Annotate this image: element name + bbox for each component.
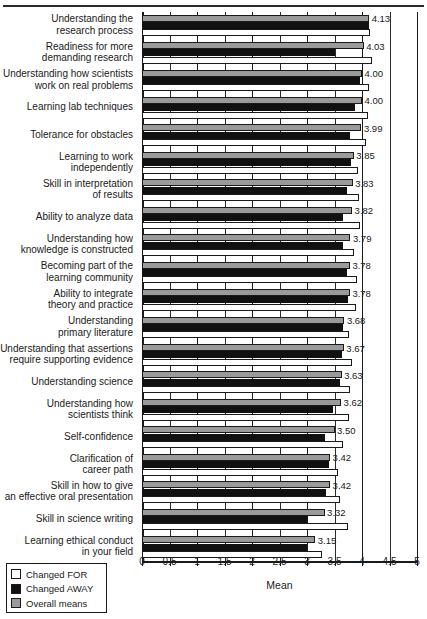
bar-forbar (142, 84, 369, 91)
bar-forbar (142, 222, 360, 229)
bar-group (142, 262, 417, 289)
x-tick-label-4: 4 (359, 556, 365, 567)
bar-away (142, 406, 333, 413)
bar-forbar (142, 29, 370, 36)
x-axis-title: Mean (142, 579, 417, 591)
bar-forbar (142, 523, 348, 530)
bar-overall (142, 42, 364, 49)
category-label: Self-confidence (0, 431, 138, 442)
bar-group (142, 371, 417, 398)
category-label-column: Understanding the research processReadin… (0, 12, 138, 561)
x-tick-label-5: 5 (414, 556, 420, 567)
bar-group (142, 152, 417, 179)
category-label: Understanding that assertions require su… (0, 343, 138, 366)
bar-overall (142, 207, 352, 214)
category-label: Ability to integrate theory and practice (0, 288, 138, 311)
bar-overall (142, 262, 350, 269)
bar-overall (142, 179, 353, 186)
bar-overall (142, 234, 350, 241)
bar-value-label: 4.00 (365, 69, 384, 79)
category-label: Understanding how scientists work on rea… (0, 68, 138, 91)
horizontal-bar-chart: Understanding the research processReadin… (0, 0, 427, 619)
bar-away (142, 187, 347, 194)
bar-value-label: 3.83 (355, 179, 374, 189)
bar-away (142, 489, 326, 496)
category-label: Understanding how scientists think (0, 398, 138, 421)
bar-overall (142, 536, 315, 543)
bar-away (142, 269, 347, 276)
bar-away (142, 22, 369, 29)
category-label: Skill in interpretation of results (0, 178, 138, 201)
category-label: Learning ethical conduct in your field (0, 535, 138, 558)
bar-overall (142, 426, 335, 433)
bar-away (142, 461, 329, 468)
bar-group (142, 399, 417, 426)
category-label: Learning to work independently (0, 151, 138, 174)
bar-group (142, 344, 417, 371)
bar-overall (142, 481, 330, 488)
bar-value-label: 3.62 (344, 398, 363, 408)
bar-overall (142, 97, 362, 104)
bar-value-label: 3.50 (337, 426, 356, 436)
category-label: Ability to analyze data (0, 211, 138, 222)
x-tick-label-4.5: 4.5 (383, 556, 397, 567)
legend-item-changed-for: Changed FOR (11, 567, 102, 582)
bar-away (142, 379, 340, 386)
category-label: Learning lab techniques (0, 101, 138, 112)
bar-value-label: 4.03 (366, 42, 385, 52)
bar-value-label: 3.78 (352, 261, 371, 271)
category-label: Tolerance for obstacles (0, 129, 138, 140)
bar-overall (142, 289, 350, 296)
bar-forbar (142, 304, 356, 311)
bar-group (142, 207, 417, 234)
bar-forbar (142, 386, 350, 393)
bar-value-label: 3.82 (355, 206, 374, 216)
category-label: Understanding science (0, 376, 138, 387)
bar-value-label: 3.79 (353, 234, 372, 244)
category-label: Skill in science writing (0, 513, 138, 524)
plot-area: 4.134.034.004.003.993.853.833.823.793.78… (142, 12, 417, 561)
x-tick-label-3.5: 3.5 (328, 556, 342, 567)
gridline-5 (417, 12, 418, 561)
x-tick-label-1.5: 1.5 (218, 556, 232, 567)
legend-swatch-changed-away-icon (11, 584, 21, 594)
bar-overall (142, 454, 330, 461)
bar-forbar (142, 469, 338, 476)
bar-away (142, 544, 307, 551)
legend-label-changed-away: Changed AWAY (26, 583, 93, 594)
bar-forbar (142, 194, 359, 201)
bar-group (142, 289, 417, 316)
bar-away (142, 77, 360, 84)
bar-overall (142, 399, 341, 406)
bar-forbar (142, 112, 368, 119)
bar-forbar (142, 167, 358, 174)
bar-value-label: 3.68 (347, 316, 366, 326)
category-label: Understanding the research process (0, 13, 138, 36)
legend-item-changed-away: Changed AWAY (11, 582, 102, 597)
bar-away (142, 104, 355, 111)
bar-group (142, 179, 417, 206)
bar-overall (142, 70, 362, 77)
bar-group (142, 317, 417, 344)
bar-away (142, 214, 343, 221)
bar-value-label: 3.67 (346, 344, 365, 354)
bar-value-label: 3.42 (333, 453, 352, 463)
bar-value-label: 3.85 (356, 151, 375, 161)
bar-group (142, 234, 417, 261)
legend-label-overall-means: Overall means (26, 598, 87, 609)
bar-away (142, 516, 307, 523)
chart-legend: Changed FOR Changed AWAY Overall means (6, 563, 107, 613)
category-label: Clarification of career path (0, 453, 138, 476)
bar-value-label: 3.99 (364, 124, 383, 134)
bar-away (142, 159, 351, 166)
bar-forbar (142, 331, 349, 338)
bar-away (142, 242, 343, 249)
bar-away (142, 49, 335, 56)
category-label: Understanding how knowledge is construct… (0, 233, 138, 256)
x-tick-label-0.5: 0.5 (163, 556, 177, 567)
bar-group (142, 454, 417, 481)
bar-group (142, 509, 417, 536)
bar-value-label: 3.42 (333, 481, 352, 491)
bar-value-label: 3.63 (344, 371, 363, 381)
bar-forbar (142, 276, 357, 283)
